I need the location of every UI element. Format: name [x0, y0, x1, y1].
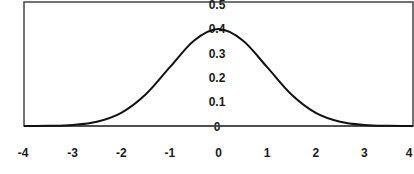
y-axis-tick-labels: 00.10.20.30.40.5: [209, 0, 226, 134]
x-tick-label: -4: [18, 146, 29, 160]
y-tick-label: 0.5: [209, 0, 226, 12]
x-tick-label: 1: [264, 146, 271, 160]
x-tick-label: 0: [215, 146, 222, 160]
x-tick-label: 4: [406, 146, 413, 160]
x-axis-tick-labels: -4-3-2-101234: [18, 146, 413, 160]
x-tick-label: -3: [67, 146, 78, 160]
x-tick-label: -1: [165, 146, 176, 160]
y-tick-label: 0.1: [209, 95, 226, 109]
x-tick-label: 3: [361, 146, 368, 160]
normal-distribution-chart: 00.10.20.30.40.5 -4-3-2-101234: [0, 0, 414, 174]
y-tick-label: 0.3: [209, 47, 226, 61]
x-tick-label: -2: [116, 146, 127, 160]
x-tick-label: 2: [312, 146, 319, 160]
y-tick-label: 0.2: [209, 71, 226, 85]
